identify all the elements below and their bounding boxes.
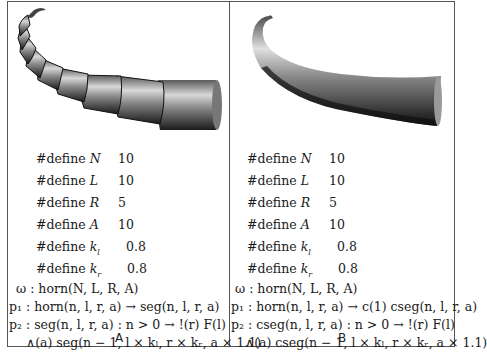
define-keyword: #define <box>36 239 86 254</box>
panel-a: #define N 10 #define L 10 #define R 5 #d… <box>8 2 230 346</box>
define-keyword: #define <box>36 261 86 276</box>
define-value: 10 <box>118 172 134 190</box>
define-value: 10 <box>118 150 134 168</box>
define-name: A <box>301 217 310 232</box>
define-keyword: #define <box>36 195 86 210</box>
define-row: #define kr 0.8 <box>36 260 101 278</box>
define-value: 0.8 <box>337 238 357 256</box>
define-keyword: #define <box>247 239 297 254</box>
define-keyword: #define <box>36 173 86 188</box>
define-keyword: #define <box>247 195 297 210</box>
define-row: #define A 10 <box>247 216 310 234</box>
smooth-horn-image <box>231 2 453 147</box>
axiom-rule: ω : horn(N, L, R, A) <box>235 280 357 298</box>
define-name: N <box>90 151 101 166</box>
define-name: R <box>301 195 310 210</box>
define-row: #define kr 0.8 <box>247 260 312 278</box>
define-value: 5 <box>118 194 126 212</box>
define-row: #define R 5 <box>247 194 310 212</box>
define-value: 10 <box>329 150 345 168</box>
define-row: #define L 10 <box>247 172 309 190</box>
define-row: #define kl 0.8 <box>247 238 311 256</box>
production-p1: p₁ : horn(n, l, r, a) → c(1) cseg(n, l, … <box>231 298 477 316</box>
define-row: #define N 10 <box>36 150 101 168</box>
segmented-horn-image <box>8 2 230 147</box>
define-name: R <box>90 195 99 210</box>
define-subscript: l <box>308 248 311 257</box>
panel-b: #define N 10 #define L 10 #define R 5 #d… <box>231 2 453 346</box>
define-value: 10 <box>329 216 345 234</box>
define-row: #define N 10 <box>247 150 312 168</box>
define-keyword: #define <box>247 151 297 166</box>
define-value: 10 <box>118 216 134 234</box>
define-name: L <box>301 173 309 188</box>
production-p1: p₁ : horn(n, l, r, a) → seg(n, l, r, a) <box>9 298 219 316</box>
panel-caption-a: A <box>8 331 230 345</box>
define-subscript: l <box>97 248 100 257</box>
define-keyword: #define <box>247 261 297 276</box>
define-value: 5 <box>329 194 337 212</box>
define-row: #define kl 0.8 <box>36 238 100 256</box>
define-keyword: #define <box>247 217 297 232</box>
define-value: 0.8 <box>338 260 358 278</box>
define-keyword: #define <box>247 173 297 188</box>
define-value: 10 <box>329 172 345 190</box>
define-name: L <box>90 173 98 188</box>
define-subscript: r <box>97 270 101 279</box>
panel-caption-b: B <box>231 331 453 345</box>
axiom-rule: ω : horn(N, L, R, A) <box>16 280 138 298</box>
define-row: #define A 10 <box>36 216 99 234</box>
define-row: #define L 10 <box>36 172 98 190</box>
define-value: 0.8 <box>126 238 146 256</box>
define-row: #define R 5 <box>36 194 99 212</box>
define-subscript: r <box>308 270 312 279</box>
define-keyword: #define <box>36 217 86 232</box>
define-name: A <box>90 217 99 232</box>
define-name: N <box>301 151 312 166</box>
define-keyword: #define <box>36 151 86 166</box>
define-value: 0.8 <box>127 260 147 278</box>
